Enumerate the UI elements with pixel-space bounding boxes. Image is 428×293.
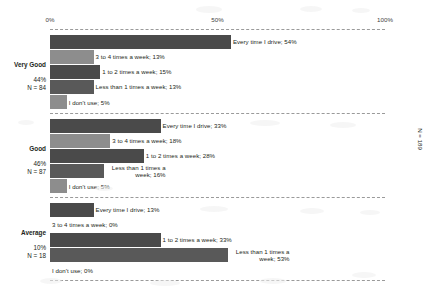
bar-value-label: I don't use; 5% (67, 183, 110, 190)
bar-value-label: 3 to 4 times a week; 13% (94, 53, 165, 60)
category-n: N = 87 (2, 168, 46, 176)
bar (50, 80, 94, 94)
bar-row: 3 to 4 times a week; 13% (50, 50, 385, 64)
bar (50, 95, 67, 109)
bar-row: Every time I drive; 54% (50, 35, 385, 49)
x-axis-tick-labels: 0%50%100% (0, 16, 428, 28)
bar-value-label: 3 to 4 times a week; 0% (50, 221, 118, 228)
category-n: N = 84 (2, 84, 46, 92)
bar-value-label: Less than 1 times a week; 13% (94, 83, 182, 90)
bar-value-label: 1 to 2 times a week; 33% (161, 236, 232, 243)
group-very-good: Very Good44%N = 84Every time I drive; 54… (50, 29, 385, 113)
category-share: 44% (2, 76, 46, 84)
category-stats: 44%N = 84 (2, 76, 46, 92)
category-n: N = 18 (2, 252, 46, 260)
bar-row: 1 to 2 times a week; 15% (50, 65, 385, 79)
bar-row: I don't use; 5% (50, 95, 385, 109)
bar-value-label: Less than 1 times a week; 53% (228, 248, 290, 263)
bar-row: 3 to 4 times a week; 0% (50, 218, 385, 232)
bar-row: Less than 1 times a week; 13% (50, 80, 385, 94)
bar-value-label: I don't use; 5% (67, 99, 110, 106)
category-share: 46% (2, 160, 46, 168)
bar-row: Less than 1 times a week; 53% (50, 248, 385, 262)
bar-value-label: 3 to 4 times a week; 18% (110, 137, 181, 144)
bar (50, 203, 94, 217)
bar-row: I don't use; 0% (50, 263, 385, 277)
category-name: Average (2, 229, 46, 236)
x-tick-100: 100% (377, 16, 393, 23)
group-good: Good46%N = 87Every time I drive; 33%3 to… (50, 113, 385, 197)
paper-texture-mark (196, 6, 222, 13)
category-stats: 10%N = 18 (2, 244, 46, 260)
category-block: Good46%N = 87 (2, 114, 50, 197)
category-block: Average10%N = 18 (2, 198, 50, 280)
bar-value-label: Every time I drive; 13% (94, 206, 160, 213)
bar-row: 3 to 4 times a week; 18% (50, 134, 385, 148)
category-share: 10% (2, 244, 46, 252)
group-average: Average10%N = 18Every time I drive; 13%3… (50, 197, 385, 281)
bar (50, 134, 110, 148)
bar (50, 164, 104, 178)
bar (50, 233, 161, 247)
total-sample-size-label: N = 189 (417, 128, 424, 150)
bar-row: Every time I drive; 33% (50, 119, 385, 133)
category-name: Very Good (2, 61, 46, 68)
bar (50, 35, 231, 49)
bar (50, 119, 161, 133)
bar (50, 179, 67, 193)
bar (50, 65, 100, 79)
category-name: Good (2, 145, 46, 152)
bar-row: I don't use; 5% (50, 179, 385, 193)
bar-row: Every time I drive; 13% (50, 203, 385, 217)
bar-value-label: Every time I drive; 33% (161, 122, 227, 129)
bar-row: Less than 1 times a week; 16% (50, 164, 385, 178)
bar-value-label: Every time I drive; 54% (231, 38, 297, 45)
bar-value-label: 1 to 2 times a week; 28% (144, 152, 215, 159)
bar (50, 149, 144, 163)
bar-row: 1 to 2 times a week; 33% (50, 233, 385, 247)
paper-texture-mark (352, 8, 370, 13)
bar (50, 248, 228, 262)
bar (50, 50, 94, 64)
bar-value-label: I don't use; 0% (50, 267, 93, 274)
category-block: Very Good44%N = 84 (2, 30, 50, 113)
bar-value-label: Less than 1 times a week; 16% (104, 164, 166, 179)
plot-area: Very Good44%N = 84Every time I drive; 54… (50, 29, 385, 281)
category-stats: 46%N = 87 (2, 160, 46, 176)
x-tick-0: 0% (45, 16, 54, 23)
paper-texture-mark (300, 6, 322, 12)
bar-row: 1 to 2 times a week; 28% (50, 149, 385, 163)
horizontal-bar-chart: 0%50%100% Very Good44%N = 84Every time I… (0, 0, 428, 293)
x-tick-50: 50% (211, 16, 224, 23)
bar-value-label: 1 to 2 times a week; 15% (100, 68, 171, 75)
